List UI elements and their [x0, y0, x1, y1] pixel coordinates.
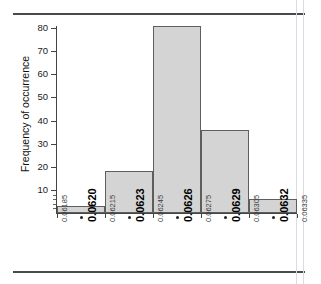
histogram-bar	[153, 26, 201, 213]
y-tick-mark	[51, 97, 56, 98]
x-tick-mark	[105, 214, 106, 218]
y-tick-mark	[51, 121, 56, 122]
y-tick-mark	[51, 190, 56, 191]
x-center-marker	[80, 216, 83, 219]
x-tick-mark	[153, 214, 154, 218]
x-tick-label-major: 0.0626	[182, 188, 194, 222]
x-tick-mark	[201, 214, 202, 218]
histogram-figure: Frequency of occurrence 8070605040302010…	[0, 0, 321, 284]
x-tick-label-minor: 0.06245	[156, 195, 165, 222]
y-minor-tick-mark	[53, 208, 56, 209]
y-tick-label: 60	[37, 69, 48, 78]
y-tick-mark	[51, 74, 56, 75]
x-center-marker	[224, 216, 227, 219]
plot-area	[57, 26, 297, 213]
page-guide-line-right	[303, 0, 304, 284]
x-tick-mark	[297, 214, 298, 218]
x-center-marker	[128, 216, 131, 219]
y-tick-mark	[51, 28, 56, 29]
y-tick-mark	[51, 167, 56, 168]
x-center-marker	[176, 216, 179, 219]
y-tick-label: 30	[37, 139, 48, 148]
y-tick-label: 50	[37, 92, 48, 101]
x-tick-label-minor: 0.06335	[300, 195, 309, 222]
x-tick-label-minor: 0.06275	[204, 195, 213, 222]
y-tick-label: 10	[37, 185, 48, 194]
y-tick-label: 40	[37, 116, 48, 125]
y-axis-label: Frequency of occurrence	[19, 29, 31, 199]
x-tick-label-major: 0.0623	[134, 188, 146, 222]
top-rule	[13, 13, 305, 15]
x-tick-mark	[57, 214, 58, 218]
x-tick-label-major: 0.0629	[230, 188, 242, 222]
y-tick-mark	[51, 144, 56, 145]
y-tick-label: 20	[37, 162, 48, 171]
y-tick-label: 80	[37, 23, 48, 32]
x-tick-label-major: 0.0632	[278, 188, 290, 222]
x-tick-label-minor: 0.06305	[252, 195, 261, 222]
x-tick-label-minor: 0.06215	[108, 195, 117, 222]
y-minor-tick-mark	[53, 204, 56, 205]
y-minor-tick-mark	[53, 199, 56, 200]
x-tick-mark	[249, 214, 250, 218]
bottom-rule	[13, 271, 305, 273]
y-tick-mark	[51, 51, 56, 52]
y-tick-label: 70	[37, 46, 48, 55]
x-tick-label-minor: 0.06185	[60, 195, 69, 222]
x-center-marker	[272, 216, 275, 219]
y-minor-tick-mark	[53, 195, 56, 196]
x-tick-label-major: 0.0620	[86, 188, 98, 222]
